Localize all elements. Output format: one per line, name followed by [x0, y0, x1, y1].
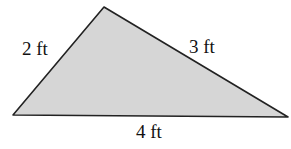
side-label-left: 2 ft [22, 39, 48, 58]
triangle-shape [13, 7, 288, 117]
side-label-right: 3 ft [189, 37, 215, 56]
side-label-bottom: 4 ft [136, 122, 162, 141]
